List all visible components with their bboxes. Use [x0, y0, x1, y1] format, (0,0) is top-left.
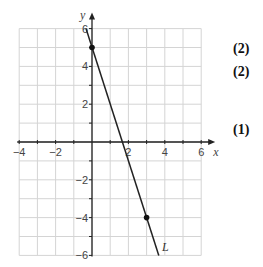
line-label: L	[161, 240, 169, 254]
y-axis-label: y	[79, 8, 86, 22]
x-axis-label: x	[212, 145, 219, 159]
y-axis-arrow-icon	[89, 13, 95, 20]
y-tick-label: −6	[75, 249, 88, 261]
y-tick-label: 4	[82, 60, 88, 72]
mark-3: (1)	[233, 122, 263, 138]
data-point	[89, 45, 95, 51]
x-tick-label: −4	[13, 146, 26, 158]
coordinate-graph: −4−2246642−2−4−6xyL	[0, 0, 263, 267]
y-tick-label: 2	[82, 98, 88, 110]
y-tick-label: −2	[75, 174, 88, 186]
x-tick-label: 6	[198, 146, 204, 158]
y-tick-label: −4	[75, 212, 88, 224]
mark-1: (2)	[233, 41, 263, 57]
x-tick-label: −2	[49, 146, 62, 158]
data-point	[144, 215, 150, 221]
x-tick-label: 4	[162, 146, 168, 158]
mark-2: (2)	[233, 64, 263, 80]
